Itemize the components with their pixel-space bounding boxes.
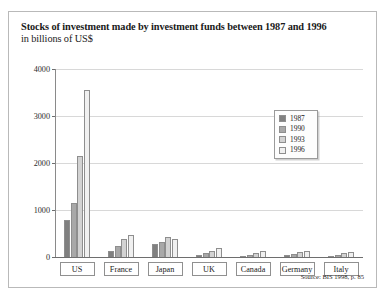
bar xyxy=(71,203,77,257)
legend-swatch-icon xyxy=(279,136,286,143)
chart-legend: 1987199019931996 xyxy=(274,110,318,159)
legend-swatch-icon xyxy=(279,147,286,154)
bar-group xyxy=(284,68,310,257)
legend-label: 1996 xyxy=(290,146,305,153)
y-tick-label: 1000 xyxy=(34,206,50,215)
bar xyxy=(77,156,83,257)
bar-group xyxy=(108,68,134,257)
legend-label: 1987 xyxy=(290,115,305,122)
legend-swatch-icon xyxy=(279,126,286,133)
bar xyxy=(121,239,127,257)
category-label-japan: Japan xyxy=(148,262,183,276)
chart-frame: Stocks of investment made by investment … xyxy=(8,11,377,288)
bar xyxy=(64,220,70,257)
legend-item: 1996 xyxy=(279,146,314,155)
plot-area: 01000200030004000 xyxy=(55,69,363,258)
bar xyxy=(84,90,90,257)
bar xyxy=(165,237,171,257)
bar-group xyxy=(240,68,266,257)
legend-swatch-icon xyxy=(279,115,286,122)
legend-item: 1993 xyxy=(279,135,314,144)
bar-group xyxy=(152,68,178,257)
y-tick-label: 2000 xyxy=(34,159,50,168)
y-tick-label: 3000 xyxy=(34,112,50,121)
y-axis-line xyxy=(55,69,56,258)
category-label-uk: UK xyxy=(192,262,227,276)
legend-label: 1993 xyxy=(290,136,305,143)
x-axis-line xyxy=(55,257,363,258)
source-note: Source: BIS 1998, p. 85 xyxy=(301,273,364,280)
category-label-canada: Canada xyxy=(236,262,271,276)
legend-label: 1990 xyxy=(290,125,305,132)
y-tick-label: 0 xyxy=(46,253,50,262)
bar xyxy=(172,239,178,257)
bar-group xyxy=(64,68,90,257)
bar xyxy=(216,248,222,257)
title-block: Stocks of investment made by investment … xyxy=(21,21,366,46)
bar-group xyxy=(328,68,354,257)
category-label-us: US xyxy=(60,262,95,276)
legend-item: 1990 xyxy=(279,125,314,134)
bar-group xyxy=(196,68,222,257)
bar xyxy=(159,242,165,258)
y-tick-label: 4000 xyxy=(34,65,50,74)
legend-item: 1987 xyxy=(279,114,314,123)
bar xyxy=(152,244,158,257)
chart-subtitle: in billions of US$ xyxy=(21,33,366,46)
page-title: Stocks of investment made by investment … xyxy=(21,21,366,33)
bar xyxy=(128,235,134,257)
bar xyxy=(115,246,121,257)
category-label-france: France xyxy=(104,262,139,276)
